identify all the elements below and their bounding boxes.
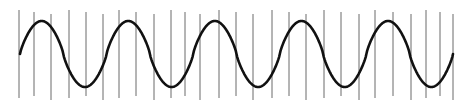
sampled-sine-diagram <box>0 0 475 108</box>
diagram-canvas <box>0 0 475 108</box>
